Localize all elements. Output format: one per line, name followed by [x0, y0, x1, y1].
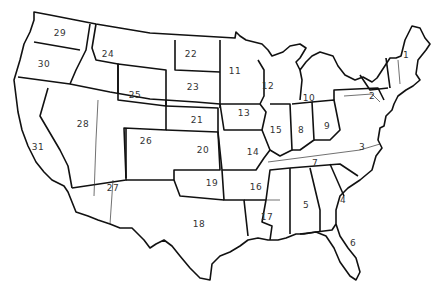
region-label-9: 9	[324, 121, 330, 131]
region-label-10: 10	[303, 93, 315, 103]
region-label-17: 17	[261, 212, 273, 222]
region-label-24: 24	[102, 49, 114, 59]
state-boundaries	[18, 24, 400, 240]
region-label-18: 18	[193, 219, 205, 229]
region-label-19: 19	[206, 178, 218, 188]
country-outline	[14, 12, 430, 280]
region-label-21: 21	[191, 115, 203, 125]
region-label-25: 25	[129, 90, 141, 100]
region-label-22: 22	[185, 49, 197, 59]
region-label-14: 14	[247, 147, 259, 157]
region-label-12: 12	[262, 81, 274, 91]
region-label-13: 13	[238, 108, 250, 118]
region-label-28: 28	[77, 119, 89, 129]
region-label-27: 27	[107, 183, 119, 193]
region-label-5: 5	[303, 200, 309, 210]
region-label-1: 1	[403, 50, 409, 60]
region-label-4: 4	[340, 195, 346, 205]
region-label-7: 7	[312, 158, 318, 168]
region-label-31: 31	[32, 142, 44, 152]
region-label-26: 26	[140, 136, 152, 146]
us-map	[0, 0, 441, 290]
region-label-16: 16	[250, 182, 262, 192]
region-label-2: 2	[369, 91, 375, 101]
region-label-15: 15	[270, 125, 282, 135]
region-label-3: 3	[359, 142, 365, 152]
region-label-6: 6	[350, 238, 356, 248]
region-label-11: 11	[229, 66, 241, 76]
region-label-8: 8	[298, 125, 304, 135]
region-label-20: 20	[197, 145, 209, 155]
region-label-23: 23	[187, 82, 199, 92]
region-label-29: 29	[54, 28, 66, 38]
region-label-30: 30	[38, 59, 50, 69]
